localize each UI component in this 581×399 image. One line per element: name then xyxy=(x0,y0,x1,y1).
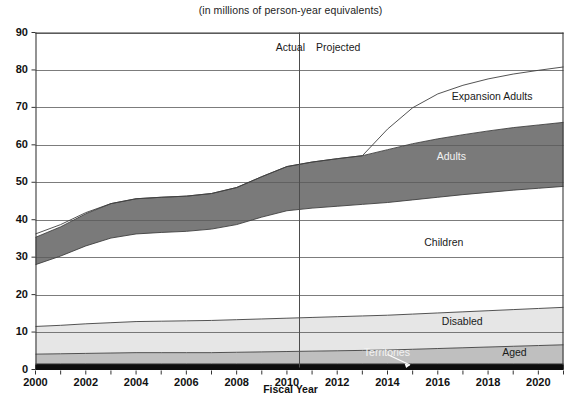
y-tick-label-50: 50 xyxy=(2,175,28,187)
expansion-adults-label: Expansion Adults xyxy=(452,90,533,102)
territories-label: Territories xyxy=(364,346,410,358)
actual-label: Actual xyxy=(276,41,305,53)
children-label: Children xyxy=(424,236,463,248)
y-tick-label-0: 0 xyxy=(2,363,28,375)
aged-label: Aged xyxy=(502,346,527,358)
projected-label: Projected xyxy=(316,41,360,53)
y-tick-label-20: 20 xyxy=(2,288,28,300)
y-tick-label-90: 90 xyxy=(2,26,28,38)
disabled-label: Disabled xyxy=(442,315,483,327)
y-tick-label-60: 60 xyxy=(2,138,28,150)
y-tick-label-30: 30 xyxy=(2,250,28,262)
y-tick-label-10: 10 xyxy=(2,325,28,337)
chart-figure: (in millions of person-year equivalents)… xyxy=(0,0,581,399)
x-axis-title: Fiscal Year xyxy=(0,383,581,395)
y-tick-label-80: 80 xyxy=(2,63,28,75)
y-tick-label-40: 40 xyxy=(2,213,28,225)
adults-label: Adults xyxy=(437,150,466,162)
y-tick-label-70: 70 xyxy=(2,100,28,112)
chart-canvas xyxy=(0,0,581,399)
